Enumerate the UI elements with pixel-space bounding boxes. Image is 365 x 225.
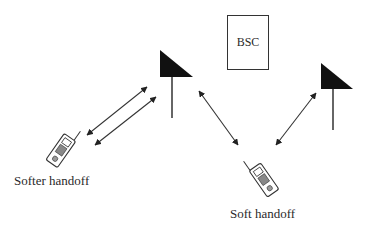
soft-handoff-caption: Soft handoff	[230, 207, 295, 220]
soft-handoff-link-bs1-arrow	[199, 91, 238, 145]
base-station-1-antenna-icon	[160, 50, 193, 118]
bsc-label: BSC	[237, 35, 260, 50]
mobile-phone-1-icon	[46, 124, 82, 167]
base-station-2-antenna-icon	[321, 63, 353, 130]
softer-handoff-caption: Softer handoff	[14, 174, 89, 187]
soft-handoff-link-bs2-arrow	[276, 93, 316, 145]
handoff-diagram	[0, 0, 365, 225]
mobile-phone-2-icon	[243, 154, 279, 197]
bsc-node: BSC	[227, 15, 269, 70]
